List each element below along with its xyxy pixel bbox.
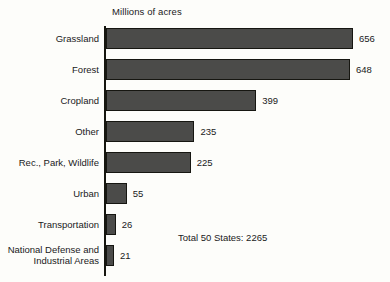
bar-value-label: 656 [359,28,375,49]
bar-row: National Defense andIndustrial Areas21 [0,245,390,266]
bar [106,152,191,173]
bar-value-label: 648 [356,59,372,80]
bar-value-label: 55 [133,183,144,204]
bar-chart: Millions of acres Grassland656Forest648C… [0,0,390,282]
bar [106,214,116,235]
bar-value-label: 235 [200,121,216,142]
bar [106,183,127,204]
bar [106,90,256,111]
bar-value-label: 399 [262,90,278,111]
bar [106,121,194,142]
category-label: Rec., Park, Wildlife [0,152,99,173]
bar-value-label: 26 [122,214,133,235]
bar [106,59,350,80]
category-label: Other [0,121,99,142]
category-label: Forest [0,59,99,80]
bar-row: Cropland399 [0,90,390,111]
bar-value-label: 21 [120,245,131,266]
category-label: Cropland [0,90,99,111]
category-label: Grassland [0,28,99,49]
category-label: National Defense andIndustrial Areas [0,244,99,266]
bar-row: Other235 [0,121,390,142]
bar-row: Rec., Park, Wildlife225 [0,152,390,173]
bar-value-label: 225 [197,152,213,173]
total-annotation: Total 50 States: 2265 [178,232,267,243]
category-label: Urban [0,183,99,204]
bar [106,28,353,49]
bar [106,245,114,266]
bar-row: Urban55 [0,183,390,204]
category-label: Transportation [0,214,99,235]
bar-row: Forest648 [0,59,390,80]
bar-row: Grassland656 [0,28,390,49]
axis-title: Millions of acres [112,6,182,17]
